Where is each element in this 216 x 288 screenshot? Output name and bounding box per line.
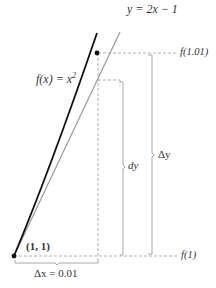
tangent-line (14, 32, 120, 256)
dy-label: dy (128, 159, 138, 171)
delta-y-bracket (148, 55, 154, 254)
point-f101 (95, 51, 100, 56)
curve-equation-label: f(x) = x2 (36, 71, 76, 87)
f101-label: f(1.01) (180, 46, 208, 57)
delta-x-label: Δx = 0.01 (34, 267, 78, 279)
f1-label: f(1) (181, 249, 196, 260)
curve-fn-exponent: 2 (72, 71, 76, 80)
point-label: (1, 1) (26, 240, 50, 252)
point-1-1 (12, 254, 17, 259)
tangent-equation-label: y = 2x − 1 (127, 2, 178, 17)
delta-y-label: Δy (158, 148, 171, 160)
dy-bracket (120, 82, 125, 255)
delta-x-bracket (15, 260, 98, 265)
curve-fn-text: f(x) = x (36, 72, 72, 86)
curve-line (14, 33, 97, 256)
